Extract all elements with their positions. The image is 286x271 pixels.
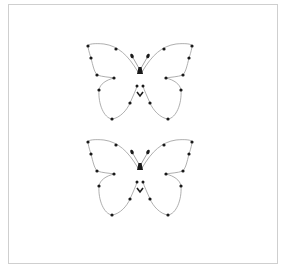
control-point [86, 44, 89, 47]
control-point [112, 76, 115, 79]
control-point [187, 56, 190, 59]
body-point [146, 149, 151, 155]
control-point [86, 140, 89, 143]
control-point [110, 117, 113, 120]
control-point [128, 101, 131, 104]
body-point [130, 53, 135, 59]
control-point [114, 47, 117, 50]
control-point [164, 172, 167, 175]
body-point [137, 188, 143, 192]
control-point [148, 197, 151, 200]
control-point [190, 140, 193, 143]
butterfly-bottom [86, 140, 193, 217]
control-point [95, 169, 98, 172]
control-point [95, 73, 98, 76]
body-point [136, 85, 139, 88]
control-point [110, 213, 113, 216]
control-point [164, 76, 167, 79]
control-point [190, 44, 193, 47]
body-point [137, 67, 143, 74]
control-point [181, 169, 184, 172]
control-point [166, 117, 169, 120]
control-point [97, 88, 100, 91]
butterfly-canvas [0, 0, 286, 271]
body-point [142, 181, 145, 184]
control-point [112, 172, 115, 175]
control-point [181, 73, 184, 76]
control-point [162, 143, 165, 146]
control-point [128, 197, 131, 200]
control-point [114, 143, 117, 146]
body-point [130, 149, 135, 155]
body-point [137, 163, 143, 170]
control-point [179, 88, 182, 91]
control-point [97, 184, 100, 187]
control-point [187, 152, 190, 155]
body-point [142, 85, 145, 88]
control-point [148, 101, 151, 104]
control-point [179, 184, 182, 187]
control-point [162, 47, 165, 50]
body-point [137, 92, 143, 96]
body-point [136, 181, 139, 184]
control-point [89, 56, 92, 59]
butterfly-top [86, 44, 193, 121]
control-point [89, 152, 92, 155]
control-point [166, 213, 169, 216]
body-point [146, 53, 151, 59]
